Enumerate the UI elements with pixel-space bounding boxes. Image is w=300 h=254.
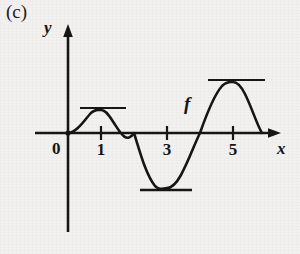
graph-canvas bbox=[0, 0, 300, 254]
x-axis-label: x bbox=[277, 140, 286, 157]
curve-label-f: f bbox=[184, 94, 190, 113]
figure-container: (c) y x f 0 bbox=[0, 0, 300, 254]
tangent-lines bbox=[80, 80, 265, 190]
x-axis-arrowhead bbox=[268, 128, 281, 138]
y-axis bbox=[63, 24, 73, 232]
tick-label-5: 5 bbox=[223, 141, 243, 158]
tick-label-3: 3 bbox=[157, 141, 177, 158]
y-axis-label: y bbox=[44, 19, 52, 36]
tick-label-1: 1 bbox=[91, 141, 111, 158]
origin-tick-label: 0 bbox=[52, 140, 61, 157]
y-axis-arrowhead bbox=[63, 24, 73, 37]
origin-point bbox=[65, 130, 70, 135]
